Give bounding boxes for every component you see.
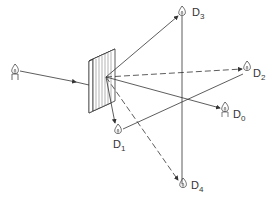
svg-text:D1: D1 bbox=[113, 138, 126, 153]
svg-text:D0: D0 bbox=[233, 108, 246, 123]
diffracted-rays bbox=[106, 16, 242, 180]
detector-d4: D4 bbox=[180, 178, 204, 194]
detector-d3: D3 bbox=[179, 6, 205, 21]
incident-beam-continue bbox=[76, 82, 89, 85]
detector-d2: D2 bbox=[244, 61, 266, 82]
diagram-canvas: D3 D2 D0 D1 D4 bbox=[0, 0, 277, 201]
svg-text:D3: D3 bbox=[192, 6, 205, 21]
source-candle-icon bbox=[12, 64, 19, 80]
incident-beam bbox=[20, 71, 76, 82]
svg-text:D4: D4 bbox=[191, 179, 204, 194]
detector-d0: D0 bbox=[222, 102, 246, 123]
svg-text:D2: D2 bbox=[253, 67, 266, 82]
